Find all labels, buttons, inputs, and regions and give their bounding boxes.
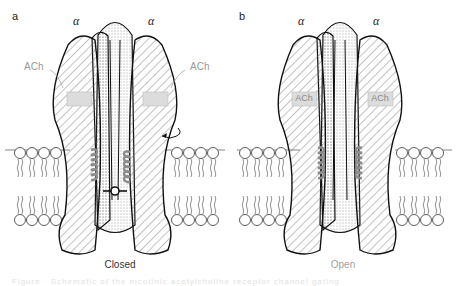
receptor-diagram (0, 0, 458, 286)
figure: a α α ACh ACh Closed b α α ACh ACh Open … (0, 0, 458, 286)
panel-b-ach-bound-left: ACh (292, 93, 316, 103)
panel-a-letter: a (12, 10, 18, 22)
panel-b-letter: b (239, 10, 245, 22)
panel-b-ach-bound-right: ACh (368, 93, 392, 103)
panel-a-state-label: Closed (80, 259, 160, 270)
panel-b-channel (278, 23, 402, 255)
panel-a-ach-left: ACh (24, 61, 43, 72)
figure-caption: Figure · Schematic of the nicotinic acet… (12, 277, 340, 286)
panel-a-channel (50, 23, 185, 255)
panel-a-alpha-right: α (148, 14, 154, 29)
panel-b-state-label: Open (303, 259, 383, 270)
panel-a-alpha-left: α (73, 14, 79, 29)
panel-b-alpha-right: α (373, 14, 379, 29)
panel-a-ach-right: ACh (190, 61, 209, 72)
panel-b-alpha-left: α (298, 14, 304, 29)
